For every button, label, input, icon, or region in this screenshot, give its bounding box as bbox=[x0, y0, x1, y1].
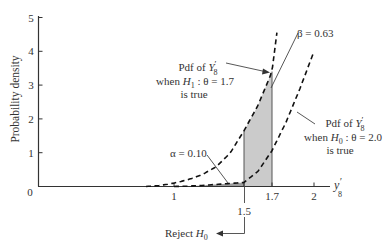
h1-l2-pre: when bbox=[156, 75, 183, 87]
beta-label: β = 0.63 bbox=[297, 27, 334, 39]
x-label-prime: ′ bbox=[339, 176, 342, 187]
x-tick-label: 2 bbox=[311, 190, 317, 202]
x-axis-label: y′ 8 bbox=[333, 176, 342, 199]
axes: 12345 11.51.72 bbox=[28, 12, 330, 218]
origin-label: 0 bbox=[27, 186, 33, 198]
h0-annotation: Pdf of Y′8 when H0 : θ = 2.0 is true bbox=[304, 115, 382, 156]
x-label-sub: 8 bbox=[338, 190, 342, 199]
y-tick-label: 5 bbox=[28, 12, 34, 24]
reject-h0-indicator: Reject H0 bbox=[165, 186, 245, 242]
h1-l3: is true bbox=[180, 88, 207, 100]
y-tick-label: 2 bbox=[28, 113, 34, 125]
h1-annotation: Pdf of Y′8 when H1 : θ = 1.7 is true bbox=[156, 59, 234, 100]
y-tick-label: 1 bbox=[28, 147, 34, 159]
h1-l2-post: : θ = 1.7 bbox=[195, 75, 235, 87]
beta-region bbox=[244, 72, 272, 187]
hypothesis-test-chart: 12345 11.51.72 Probability density 0 y′ … bbox=[0, 0, 392, 249]
reject-arrow-left-icon bbox=[216, 231, 223, 237]
h0-leader-line bbox=[297, 112, 315, 124]
h0-l2-post: : θ = 2.0 bbox=[343, 131, 383, 143]
h0-l2-pre: when bbox=[304, 131, 331, 143]
h1-leader-arrowhead bbox=[262, 69, 270, 75]
y-ticks: 12345 bbox=[28, 12, 42, 159]
reject-sub: 0 bbox=[204, 233, 208, 242]
x-tick-label: 1.5 bbox=[237, 205, 251, 217]
x-tick-label: 1.7 bbox=[265, 190, 279, 202]
h0-l3: is true bbox=[326, 144, 353, 156]
svg-text:Reject H0: Reject H0 bbox=[165, 227, 208, 242]
h0-l1-pre: Pdf of bbox=[325, 117, 355, 129]
reject-pre: Reject bbox=[165, 227, 196, 239]
y-tick-label: 4 bbox=[28, 45, 34, 57]
x-tick-label: 1 bbox=[171, 190, 177, 202]
h1-leader-line bbox=[226, 63, 267, 72]
y-axis-label: Probability density bbox=[9, 55, 22, 142]
h1-l1-pre: Pdf of bbox=[178, 61, 208, 73]
alpha-label: α = 0.10 bbox=[170, 147, 207, 159]
x-ticks: 11.51.72 bbox=[171, 183, 317, 218]
y-tick-label: 3 bbox=[28, 79, 34, 91]
